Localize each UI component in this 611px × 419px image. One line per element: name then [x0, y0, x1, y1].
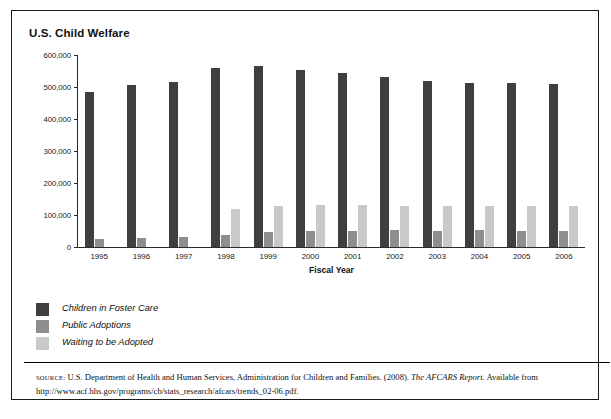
bar — [485, 206, 494, 247]
bar — [254, 66, 263, 247]
bar — [475, 230, 484, 247]
bar — [316, 205, 325, 247]
bar — [443, 206, 452, 247]
bar-group — [85, 55, 114, 247]
bar — [517, 231, 526, 247]
bar — [465, 83, 474, 247]
x-axis-tick-label: 1999 — [247, 252, 289, 261]
bar-group — [465, 55, 494, 247]
bar — [179, 237, 188, 247]
bar — [559, 231, 568, 247]
bar — [423, 81, 432, 247]
source-kicker: SOURCE: — [36, 374, 65, 381]
bar — [221, 235, 230, 247]
bar — [380, 77, 389, 247]
x-axis-tick-label: 2000 — [289, 252, 331, 261]
y-axis-tick-labels: 0100,000200,000300,000400,000500,000600,… — [29, 49, 75, 249]
bar — [358, 205, 367, 247]
source-text-b: . — [483, 372, 485, 382]
y-axis-tick-mark — [74, 151, 77, 152]
bar-group — [423, 55, 452, 247]
bar — [507, 83, 516, 247]
source-text-a: U.S. Department of Health and Human Serv… — [65, 372, 411, 382]
bar-group — [169, 55, 198, 247]
y-axis-tick-label: 100,000 — [44, 211, 71, 220]
chart-plot-area: 0100,000200,000300,000400,000500,000600,… — [29, 49, 585, 264]
bar — [400, 206, 409, 247]
x-axis-tick-label: 1995 — [78, 252, 120, 261]
y-axis-tick-mark — [74, 87, 77, 88]
bar — [296, 70, 305, 247]
bar — [95, 239, 104, 247]
bar-group — [127, 55, 156, 247]
x-axis-tick-label: 2003 — [416, 252, 458, 261]
y-axis-tick-mark — [74, 215, 77, 216]
chart-legend: Children in Foster CarePublic AdoptionsW… — [36, 301, 336, 352]
x-axis-tick-label: 1996 — [120, 252, 162, 261]
y-axis-tick-mark — [74, 183, 77, 184]
bar-group — [254, 55, 283, 247]
x-axis-tick-labels: 1995199619971998199920002001200220032004… — [78, 250, 585, 266]
bar-group — [549, 55, 578, 247]
legend-label: Waiting to be Adopted — [62, 337, 153, 347]
chart-title: U.S. Child Welfare — [29, 27, 130, 39]
bar — [348, 231, 357, 247]
bar — [569, 206, 578, 247]
x-axis-line — [77, 247, 585, 248]
y-axis-tick-label: 500,000 — [44, 83, 71, 92]
figure-page: U.S. Child Welfare 0100,000200,000300,00… — [0, 0, 611, 419]
y-axis-tick-label: 600,000 — [44, 51, 71, 60]
bar — [306, 231, 315, 247]
legend-item: Children in Foster Care — [36, 301, 336, 318]
bar-group — [380, 55, 409, 247]
y-axis-tick-label: 200,000 — [44, 179, 71, 188]
x-axis-tick-label: 1998 — [205, 252, 247, 261]
bar — [85, 92, 94, 247]
bar — [390, 230, 399, 247]
x-axis-tick-label: 2005 — [501, 252, 543, 261]
x-axis-tick-label: 2002 — [374, 252, 416, 261]
legend-item: Waiting to be Adopted — [36, 335, 336, 352]
bar — [264, 232, 273, 247]
source-report-title: The AFCARS Report — [411, 372, 482, 382]
x-axis-tick-label: 1997 — [163, 252, 205, 261]
bar-group — [211, 55, 240, 247]
legend-label: Public Adoptions — [62, 320, 131, 330]
bar — [338, 73, 347, 247]
bar — [169, 82, 178, 247]
figure-frame: U.S. Child Welfare 0100,000200,000300,00… — [11, 10, 599, 400]
bar — [211, 68, 220, 247]
bar — [433, 231, 442, 247]
bar — [231, 209, 240, 247]
y-axis-tick-label: 400,000 — [44, 115, 71, 124]
y-axis-tick-mark — [74, 55, 77, 56]
x-axis-tick-label: 2006 — [543, 252, 585, 261]
bar — [127, 85, 136, 247]
x-axis-tick-label: 2004 — [458, 252, 500, 261]
legend-swatch — [36, 337, 49, 350]
bar-group — [296, 55, 325, 247]
legend-swatch — [36, 320, 49, 333]
bar — [274, 206, 283, 247]
source-divider — [24, 362, 610, 363]
bar — [527, 206, 536, 247]
legend-item: Public Adoptions — [36, 318, 336, 335]
source-note: SOURCE: U.S. Department of Health and Hu… — [36, 371, 592, 397]
y-axis-tick-label: 0 — [67, 243, 71, 252]
bar-group — [338, 55, 367, 247]
bar — [137, 238, 146, 247]
legend-swatch — [36, 303, 49, 316]
y-axis-tick-mark — [74, 247, 77, 248]
bar-groups — [78, 55, 585, 247]
x-axis-tick-label: 2001 — [332, 252, 374, 261]
bar — [549, 84, 558, 247]
legend-label: Children in Foster Care — [62, 303, 158, 313]
bar-group — [507, 55, 536, 247]
y-axis-tick-label: 300,000 — [44, 147, 71, 156]
x-axis-title: Fiscal Year — [78, 265, 585, 275]
y-axis-tick-mark — [74, 119, 77, 120]
